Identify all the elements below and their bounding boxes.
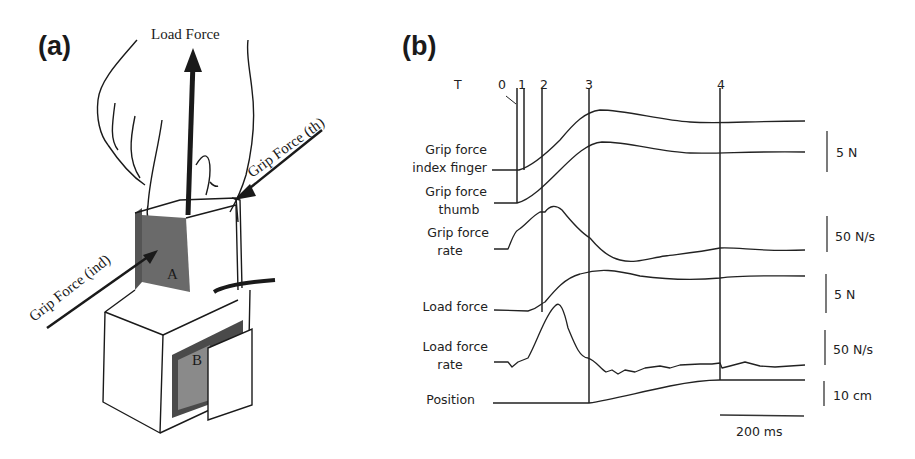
time-marker-T: T bbox=[453, 77, 462, 92]
svg-text:Position: Position bbox=[426, 392, 475, 407]
scale-grip-force: 5 N bbox=[836, 145, 857, 160]
trace-position bbox=[493, 380, 805, 403]
scale-bars: 5 N 50 N/s 5 N 50 N/s 10 cm 200 ms bbox=[720, 131, 875, 439]
svg-text:Grip force: Grip force bbox=[427, 225, 489, 240]
time-marker-0: 0 bbox=[498, 77, 506, 92]
load-force-label: Load Force bbox=[151, 26, 220, 42]
scale-position: 10 cm bbox=[833, 388, 872, 403]
scale-time: 200 ms bbox=[736, 424, 783, 439]
scale-load-force-rate: 50 N/s bbox=[833, 342, 873, 357]
panel-b-label: (b) bbox=[402, 31, 436, 61]
surface-b-label: B bbox=[192, 352, 202, 368]
figure-canvas: (a) Load Force Grip Force (th) bbox=[0, 0, 915, 459]
svg-text:rate: rate bbox=[437, 357, 463, 372]
time-marker-1: 1 bbox=[518, 77, 526, 92]
svg-text:Grip force: Grip force bbox=[425, 184, 487, 199]
grip-object-drawing: A B bbox=[103, 198, 275, 433]
panel-a: (a) Load Force Grip Force (th) bbox=[26, 26, 328, 433]
traces bbox=[492, 110, 805, 403]
svg-text:Grip force: Grip force bbox=[425, 142, 487, 157]
scale-load-force: 5 N bbox=[834, 287, 855, 302]
trace-load-force bbox=[494, 270, 805, 311]
surface-a-label: A bbox=[167, 266, 178, 282]
scale-grip-force-rate: 50 N/s bbox=[835, 229, 875, 244]
svg-text:Load force: Load force bbox=[423, 339, 489, 354]
svg-text:thumb: thumb bbox=[439, 202, 480, 217]
trace-grip-force-index bbox=[492, 110, 805, 170]
panel-b: (b) T 0 1 2 3 4 Grip force index finger … bbox=[402, 31, 875, 439]
trace-grip-force-rate bbox=[494, 206, 805, 261]
time-marker-4: 4 bbox=[717, 77, 725, 92]
trace-grip-force-thumb bbox=[494, 142, 805, 203]
trace-labels: Grip force index finger Grip force thumb… bbox=[412, 142, 489, 407]
svg-text:rate: rate bbox=[437, 243, 463, 258]
time-marker-2: 2 bbox=[540, 77, 548, 92]
grip-force-thumb-label: Grip Force (th) bbox=[244, 114, 327, 181]
grip-force-index-label: Grip Force (ind) bbox=[26, 251, 114, 325]
svg-text:Load force: Load force bbox=[423, 299, 489, 314]
grip-force-thumb-arrow: Grip Force (th) bbox=[234, 114, 328, 200]
svg-text:index finger: index finger bbox=[412, 160, 488, 175]
panel-a-label: (a) bbox=[38, 31, 71, 61]
trace-load-force-rate bbox=[494, 304, 805, 374]
